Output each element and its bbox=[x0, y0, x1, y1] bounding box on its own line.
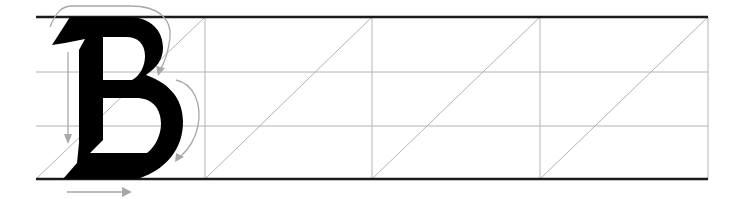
slant-guide bbox=[205, 17, 372, 179]
downstroke-arrow-icon bbox=[64, 52, 72, 144]
slant-guide bbox=[540, 17, 708, 179]
letter-b-glyph bbox=[52, 17, 183, 179]
practice-grid-canvas bbox=[0, 0, 741, 199]
base-stroke-arrow-icon bbox=[67, 187, 132, 197]
calligraphy-practice-sheet: Blackletter capital B practice sheet B bbox=[0, 0, 741, 199]
letter-b-path bbox=[52, 17, 183, 179]
slant-guide bbox=[372, 17, 540, 179]
